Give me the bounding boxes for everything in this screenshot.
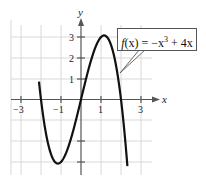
x-tick-label: 1 [98, 104, 103, 115]
callout-pointer [120, 49, 146, 73]
y-tick-label: 1 [69, 74, 74, 85]
y-tick-label: 3 [69, 32, 74, 43]
y-axis-label: y [77, 6, 83, 18]
x-tick-label: −3 [13, 104, 24, 115]
y-tick-label: 2 [69, 53, 74, 64]
x-axis-label: x [161, 93, 167, 105]
function-curve [39, 35, 127, 166]
x-tick-label: −1 [53, 104, 64, 115]
x-tick-label: 3 [138, 104, 143, 115]
function-label: f(x) = −x3 + 4x [117, 28, 197, 51]
